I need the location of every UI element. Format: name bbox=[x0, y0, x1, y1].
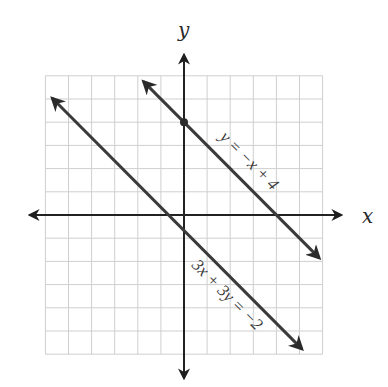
line-3x-plus-3y-equals-neg-2 bbox=[52, 98, 301, 349]
line2-equation-label: 3x + 3y = −2 bbox=[187, 255, 267, 335]
x-axis-label: x bbox=[362, 204, 373, 228]
coordinate-graph: x y y = −x + 4 3x + 3y = −2 bbox=[0, 0, 388, 387]
y-axis-label: y bbox=[177, 18, 190, 42]
y-intercept-point bbox=[180, 118, 188, 126]
line-y-equals-neg-x-plus-4 bbox=[144, 82, 320, 258]
line1-equation-label: y = −x + 4 bbox=[215, 126, 283, 194]
